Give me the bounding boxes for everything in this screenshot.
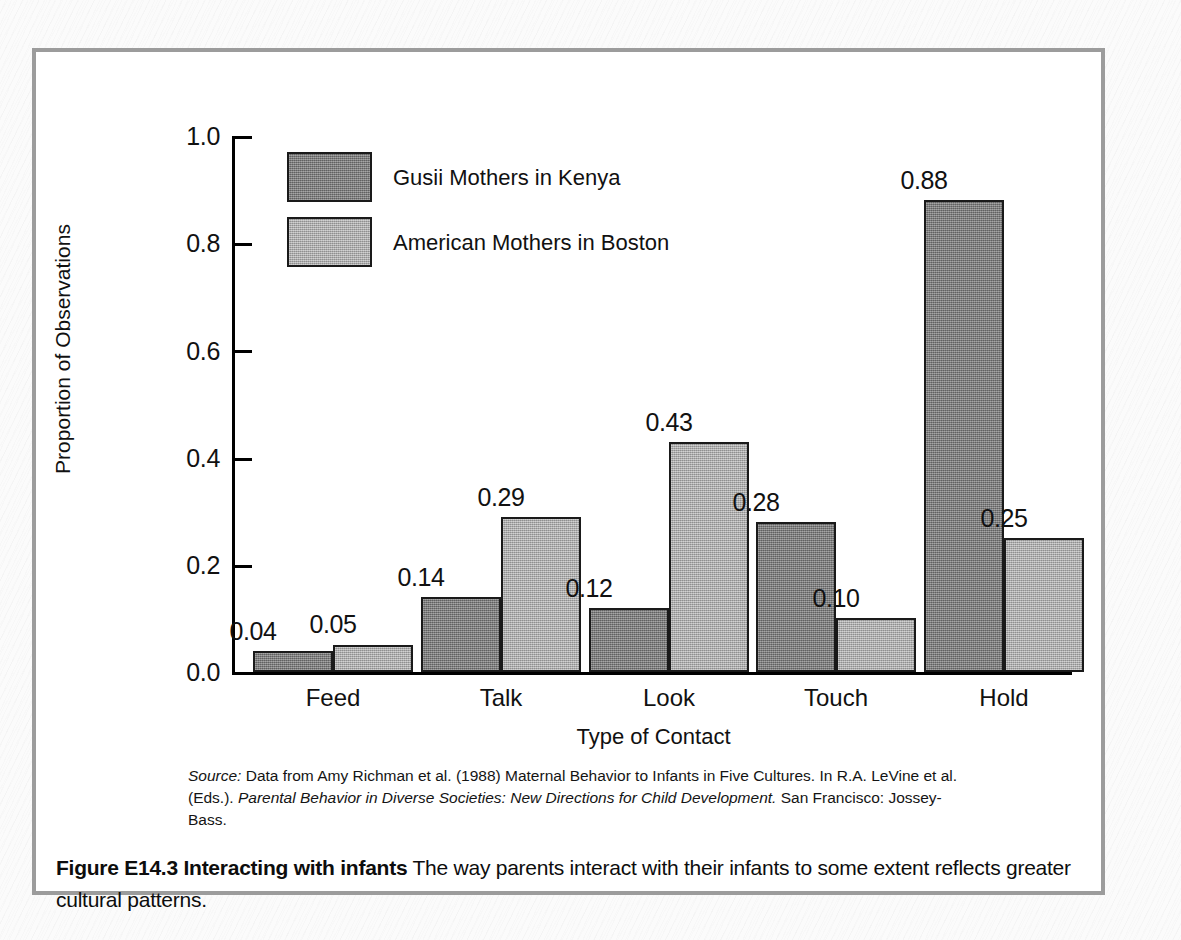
- bar-feed-american[interactable]: [333, 645, 413, 672]
- bar-look-gusii[interactable]: [589, 608, 669, 672]
- bar-feed-gusii[interactable]: [253, 651, 333, 672]
- y-tick-label: 0.0: [154, 658, 220, 687]
- bar-value-label: 0.43: [629, 408, 709, 437]
- legend-label-american: American Mothers in Boston: [393, 230, 669, 256]
- bar-hold-gusii[interactable]: [924, 200, 1004, 672]
- y-tick-label: 0.4: [154, 444, 220, 473]
- bar-value-label: 0.28: [716, 488, 796, 517]
- figure-caption-title: Figure E14.3 Interacting with infants: [56, 856, 407, 879]
- bar-value-label: 0.29: [461, 483, 541, 512]
- figure-box: Proportion of Observations 1.0 0.8 0.6 0…: [32, 48, 1105, 895]
- bar-look-american[interactable]: [669, 442, 749, 672]
- y-tick-label: 0.6: [154, 337, 220, 366]
- figure-caption: Figure E14.3 Interacting with infants Th…: [56, 852, 1081, 915]
- bar-hold-american[interactable]: [1004, 538, 1084, 672]
- legend-swatch-gusii: [287, 152, 372, 202]
- bar-value-label: 0.05: [293, 610, 373, 639]
- bar-value-label: 0.10: [796, 584, 876, 613]
- x-category-label-talk: Talk: [441, 684, 561, 712]
- y-tick-label: 1.0: [154, 122, 220, 151]
- bar-touch-american[interactable]: [836, 618, 916, 672]
- x-category-label-feed: Feed: [273, 684, 393, 712]
- legend-label-gusii: Gusii Mothers in Kenya: [393, 165, 620, 191]
- y-tick-label: 0.2: [154, 551, 220, 580]
- x-axis-line: [232, 672, 1072, 675]
- bar-value-label: 0.25: [964, 504, 1044, 533]
- source-note: Source: Data from Amy Richman et al. (19…: [188, 765, 978, 831]
- y-axis-title: Proportion of Observations: [51, 134, 75, 564]
- x-category-label-hold: Hold: [944, 684, 1064, 712]
- legend-swatch-american: [287, 217, 372, 267]
- bar-value-label: 0.04: [213, 617, 293, 646]
- x-category-label-touch: Touch: [776, 684, 896, 712]
- bar-talk-gusii[interactable]: [421, 597, 501, 672]
- bar-value-label: 0.88: [884, 166, 964, 195]
- x-category-label-look: Look: [609, 684, 729, 712]
- bar-value-label: 0.14: [381, 563, 461, 592]
- source-publication-title: Parental Behavior in Diverse Societies: …: [238, 789, 776, 806]
- x-axis-title: Type of Contact: [235, 724, 1072, 750]
- y-tick-label: 0.8: [154, 229, 220, 258]
- source-label: Source:: [188, 767, 241, 784]
- bar-chart: Proportion of Observations 1.0 0.8 0.6 0…: [36, 52, 1101, 692]
- bar-value-label: 0.12: [549, 574, 629, 603]
